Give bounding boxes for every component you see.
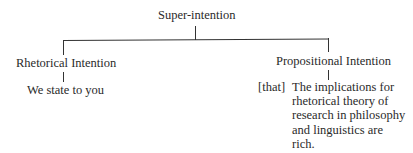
rhetorical-intention-label: Rhetorical Intention [16,56,116,70]
rhetorical-statement-text: We state to you [27,83,104,97]
proposition-line: and linguistics are [292,123,405,137]
proposition-line: rhetorical theory of [292,94,405,108]
proposition-line: research in philosophy [292,108,405,122]
right-child-connector [328,70,329,80]
branch-bar [63,38,329,41]
left-child-connector [63,72,64,82]
right-branch-connector [328,38,329,52]
proposition-line: rich. [292,137,405,151]
proposition-text: The implications for rhetorical theory o… [292,80,405,151]
root-node-label: Super-intention [158,8,236,22]
left-branch-connector [63,41,64,55]
proposition-prefix: [that] [258,80,285,94]
propositional-intention-label: Propositional Intention [276,54,391,68]
proposition-line: The implications for [292,80,405,94]
root-connector [195,26,196,40]
